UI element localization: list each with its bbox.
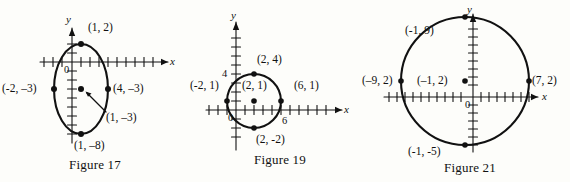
origin-label: 0	[64, 65, 69, 76]
point-center	[78, 86, 84, 92]
figure-panel-group: y x 0 (1, 2) (-2, –3) (4, –3) (1, –3) (1…	[0, 0, 570, 182]
point-label-center: (–1, 2)	[417, 75, 448, 87]
x-axis-label: x	[344, 104, 349, 115]
point-label-bottom: (1, –8)	[74, 140, 105, 152]
point-top	[78, 41, 84, 47]
y-tick-label-4: 4	[222, 69, 227, 80]
point-bottom	[251, 125, 257, 131]
x-axis-label: x	[542, 91, 547, 102]
plot-points	[51, 41, 111, 137]
y-axis-label: y	[66, 14, 71, 25]
point-right	[278, 98, 284, 104]
point-left	[224, 98, 230, 104]
point-bottom	[462, 142, 468, 148]
point-label-left: (-2, 1)	[190, 80, 219, 92]
figure-17-caption: Figure 17	[0, 157, 190, 173]
point-left	[398, 78, 404, 84]
point-label-top: (2, 4)	[257, 54, 282, 66]
point-label-bottom: (-1, -5)	[408, 146, 441, 158]
y-axis-arrowhead	[69, 28, 75, 36]
y-axis-arrowhead	[233, 22, 239, 30]
figure-19: y x 0 4 6 (2, 4) (-2, 1) (6, 1) (2, 1) (…	[190, 0, 370, 182]
x-tick-label-6: 6	[282, 116, 287, 127]
point-left	[51, 86, 57, 92]
point-label-left: (-2, –3)	[2, 83, 37, 95]
y-axis-label: y	[467, 4, 472, 15]
x-axis-arrowhead	[161, 59, 168, 65]
point-label-right: (4, –3)	[113, 83, 144, 95]
point-label-center: (2, 1)	[242, 80, 267, 92]
point-label-right: (7, 2)	[532, 75, 557, 87]
figure-17: y x 0 (1, 2) (-2, –3) (4, –3) (1, –3) (1…	[0, 0, 190, 182]
point-label-left: (–9, 2)	[362, 75, 393, 87]
origin-label: 0	[228, 113, 233, 124]
point-center	[462, 78, 468, 84]
point-top	[251, 71, 257, 77]
point-right	[526, 78, 532, 84]
figure-21: y x 0 (-1, 9) (–9, 2) (7, 2) (–1, 2) (-1…	[370, 0, 570, 182]
point-label-bottom: (2, -2)	[256, 134, 285, 146]
x-axis-arrowhead	[335, 107, 342, 113]
figure-19-caption: Figure 19	[190, 152, 370, 168]
figure-21-caption: Figure 21	[370, 160, 570, 176]
point-label-right: (6, 1)	[294, 80, 319, 92]
point-right	[105, 86, 111, 92]
point-center	[251, 98, 257, 104]
center-callout-arrow	[87, 93, 106, 112]
point-label-top: (-1, 9)	[405, 25, 434, 37]
point-top	[462, 14, 468, 20]
point-label-top: (1, 2)	[88, 22, 113, 34]
x-axis-label: x	[170, 56, 175, 67]
origin-label: 0	[465, 100, 470, 111]
y-axis-label: y	[231, 10, 236, 21]
point-label-center: (1, –3)	[106, 112, 137, 124]
point-bottom	[78, 131, 84, 137]
x-axis-arrowhead	[531, 94, 538, 100]
